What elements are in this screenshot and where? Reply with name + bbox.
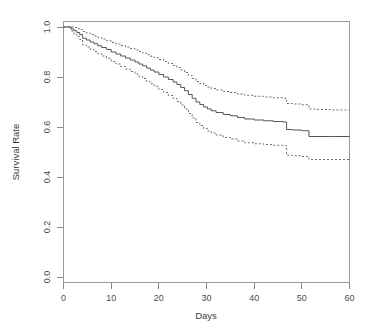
y-axis-title: Survival Rate (10, 124, 21, 181)
y-tick-label: 1.0 (42, 21, 52, 34)
x-tick-label: 10 (106, 293, 116, 303)
y-tick-label: 0.4 (42, 171, 52, 184)
y-tick-label: 0.8 (42, 71, 52, 84)
y-tick-label: 0.0 (42, 271, 52, 284)
x-tick-label: 50 (297, 293, 307, 303)
plot-canvas: 0.00.20.40.60.81.0 0102030405060 Days Su… (0, 0, 367, 326)
survival-plot-figure: 0.00.20.40.60.81.0 0102030405060 Days Su… (0, 0, 367, 326)
y-tick-label: 0.2 (42, 221, 52, 234)
x-tick-label: 60 (344, 293, 354, 303)
x-tick-label: 0 (61, 293, 66, 303)
x-axis-title: Days (195, 310, 217, 321)
figure-background (0, 0, 367, 326)
x-tick-label: 20 (154, 293, 164, 303)
x-tick-label: 30 (201, 293, 211, 303)
y-tick-label: 0.6 (42, 121, 52, 134)
x-tick-label: 40 (249, 293, 259, 303)
